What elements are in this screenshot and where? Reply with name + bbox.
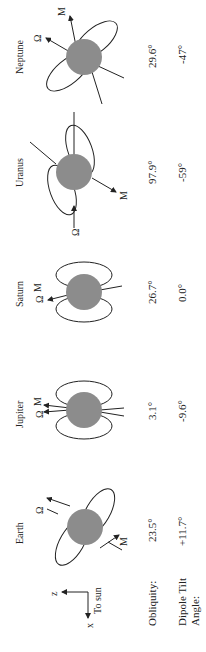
obliquity-earth: 23.5°: [146, 518, 158, 542]
planet-name-earth: Earth: [14, 522, 25, 544]
coordinate-axes-icon: [62, 592, 88, 618]
diagram-frame: z x To sun Earth Jupiter Saturn Uranus N…: [0, 0, 206, 652]
spin-axis-symbol-uranus: Ω: [70, 229, 81, 236]
saturn-diagram: [48, 262, 122, 322]
dipole-tilt-saturn: 0.0°: [176, 284, 188, 302]
obliquity-jupiter: 3.1°: [146, 402, 158, 420]
planet-name-neptune: Neptune: [14, 40, 25, 74]
uranus-diagram: [30, 112, 116, 228]
spin-axis-symbol-neptune: Ω: [32, 35, 43, 42]
magnetic-axis-symbol-saturn: M: [32, 283, 43, 292]
planet-name-uranus: Uranus: [14, 158, 25, 187]
earth-diagram: [47, 483, 122, 570]
spin-axis-symbol-saturn: Ω: [34, 296, 45, 303]
dipole-tilt-jupiter: -9.6°: [176, 400, 188, 422]
to-sun-label: To sun: [92, 587, 103, 614]
jupiter-diagram: [44, 381, 124, 439]
spin-axis-symbol-jupiter: Ω: [34, 411, 45, 418]
dipole-tilt-uranus: -59°: [176, 163, 188, 182]
obliquity-neptune: 29.6°: [146, 44, 158, 68]
planet-name-jupiter: Jupiter: [14, 401, 25, 428]
magnetic-axis-symbol-earth: M: [118, 537, 129, 546]
dipole-tilt-row-label: Dipole Tilt: [176, 578, 188, 626]
x-axis-label: x: [84, 623, 95, 628]
dipole-tilt-earth: +11.7°: [176, 517, 188, 546]
obliquity-saturn: 26.7°: [146, 280, 158, 304]
planet-name-saturn: Saturn: [14, 281, 25, 307]
diagram-stage: z x To sun Earth Jupiter Saturn Uranus N…: [0, 0, 206, 652]
dipole-tilt-neptune: -47°: [176, 45, 188, 64]
diagram-graphics: [0, 0, 206, 652]
magnetic-axis-symbol-uranus: M: [118, 191, 129, 200]
dipole-angle-row-label: Angle:: [189, 596, 201, 626]
z-axis-label: z: [48, 592, 59, 596]
obliquity-uranus: 97.9°: [146, 160, 158, 184]
magnetic-axis-symbol-jupiter: M: [32, 397, 43, 406]
neptune-diagram: [40, 14, 124, 104]
obliquity-row-label: Obliquity:: [146, 581, 158, 626]
magnetic-axis-symbol-neptune: M: [56, 7, 67, 16]
spin-axis-symbol-earth: Ω: [34, 507, 45, 514]
